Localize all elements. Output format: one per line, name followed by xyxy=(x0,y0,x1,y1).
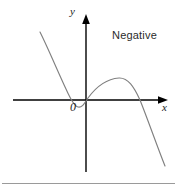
x-axis-label: x xyxy=(162,102,167,113)
y-axis-label: y xyxy=(70,6,75,17)
negative-cubic-figure: y x 0 Negative xyxy=(0,0,177,186)
origin-label: 0 xyxy=(70,101,76,113)
figure-bottom-border xyxy=(2,183,175,184)
negative-annotation: Negative xyxy=(112,29,157,41)
cubic-curve xyxy=(40,32,165,166)
y-axis-arrowhead xyxy=(82,14,90,24)
plot-canvas xyxy=(0,0,177,186)
